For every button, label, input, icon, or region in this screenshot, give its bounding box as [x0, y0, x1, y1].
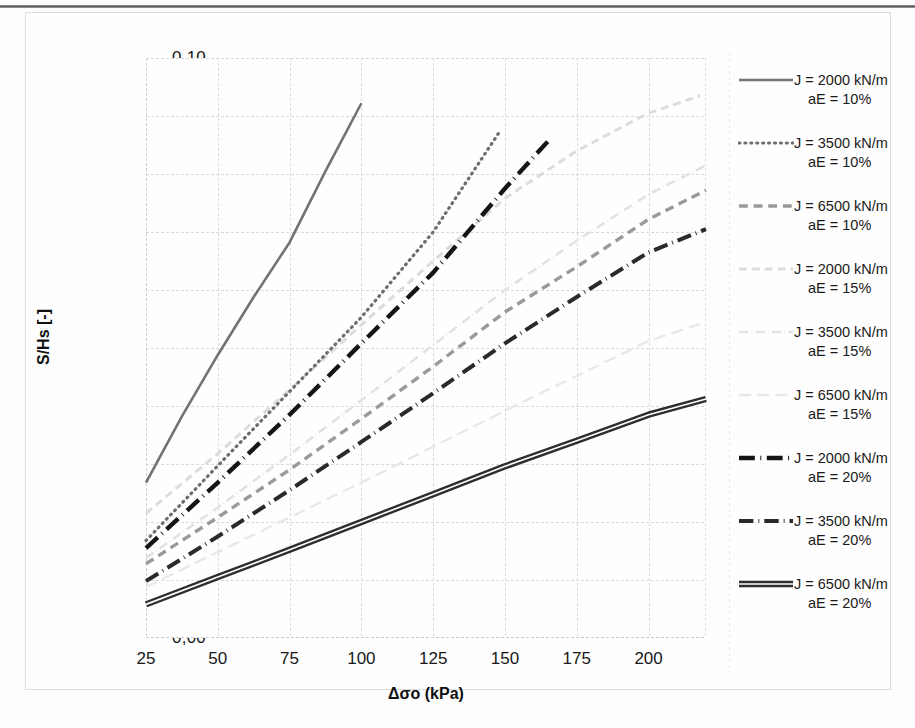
plot-area: [146, 58, 706, 638]
legend-item[interactable]: J = 3500 kN/maE = 10%: [738, 134, 915, 172]
legend-divider: [729, 53, 730, 673]
legend-label: J = 6500 kN/maE = 10%: [794, 197, 888, 235]
legend-label: J = 6500 kN/maE = 15%: [794, 386, 888, 424]
legend-item[interactable]: J = 6500 kN/maE = 20%: [738, 575, 915, 613]
legend-label-line2: aE = 20%: [794, 594, 888, 613]
legend-label: J = 2000 kN/maE = 10%: [794, 71, 888, 109]
x-tick-label: 175: [537, 649, 617, 669]
series-line: [146, 229, 706, 581]
legend-label-line1: J = 3500 kN/m: [794, 323, 888, 342]
legend-label-line1: J = 2000 kN/m: [794, 260, 888, 279]
legend-item[interactable]: J = 2000 kN/maE = 15%: [738, 260, 915, 298]
legend-line-swatch: [738, 324, 794, 340]
legend-label-line1: J = 3500 kN/m: [794, 134, 888, 153]
legend-label-line1: J = 3500 kN/m: [794, 512, 888, 531]
x-axis-label: Δσo (kPa): [388, 685, 464, 703]
chart-legend: J = 2000 kN/maE = 10%J = 3500 kN/maE = 1…: [738, 71, 915, 638]
legend-label-line2: aE = 20%: [794, 531, 888, 550]
x-tick-label: 100: [321, 649, 401, 669]
legend-label-line2: aE = 15%: [794, 405, 888, 424]
legend-label-line2: aE = 15%: [794, 342, 888, 361]
legend-label-line2: aE = 15%: [794, 279, 888, 298]
series-line: [146, 103, 361, 482]
x-tick-label: 125: [393, 649, 473, 669]
legend-line-swatch: [738, 135, 794, 151]
series-line: [146, 399, 706, 604]
x-tick-label: 200: [609, 649, 689, 669]
series-line: [146, 96, 700, 514]
data-curves: [146, 58, 706, 638]
legend-label-line1: J = 6500 kN/m: [794, 197, 888, 216]
legend-label-line2: aE = 10%: [794, 216, 888, 235]
x-tick-label: 50: [178, 649, 258, 669]
x-tick-label: 25: [106, 649, 186, 669]
x-tick-label: 75: [250, 649, 330, 669]
scan-edge-rule: [0, 5, 915, 8]
legend-label-line1: J = 6500 kN/m: [794, 386, 888, 405]
legend-label-line2: aE = 10%: [794, 90, 888, 109]
legend-label-line2: aE = 20%: [794, 468, 888, 487]
legend-label-line1: J = 2000 kN/m: [794, 71, 888, 90]
series-line: [146, 190, 706, 564]
legend-line-swatch: [738, 576, 794, 592]
legend-line-swatch: [738, 387, 794, 403]
legend-item[interactable]: J = 6500 kN/maE = 10%: [738, 197, 915, 235]
legend-label-line2: aE = 10%: [794, 153, 888, 172]
x-tick-label: 150: [465, 649, 545, 669]
legend-label: J = 6500 kN/maE = 20%: [794, 575, 888, 613]
legend-item[interactable]: J = 6500 kN/maE = 15%: [738, 386, 915, 424]
legend-label: J = 2000 kN/maE = 20%: [794, 449, 888, 487]
legend-line-swatch: [738, 513, 794, 529]
plot-area-wrapper: [146, 58, 706, 638]
series-line: [146, 132, 499, 540]
legend-label: J = 3500 kN/maE = 10%: [794, 134, 888, 172]
legend-line-swatch: [738, 450, 794, 466]
y-axis-label: S/Hs [-]: [35, 309, 53, 365]
legend-item[interactable]: J = 2000 kN/maE = 10%: [738, 71, 915, 109]
legend-label: J = 3500 kN/maE = 20%: [794, 512, 888, 550]
legend-line-swatch: [738, 261, 794, 277]
legend-label-line1: J = 6500 kN/m: [794, 575, 888, 594]
legend-line-swatch: [738, 198, 794, 214]
series-line: [146, 138, 551, 548]
legend-label: J = 3500 kN/maE = 15%: [794, 323, 888, 361]
legend-item[interactable]: J = 3500 kN/maE = 20%: [738, 512, 915, 550]
legend-item[interactable]: J = 2000 kN/maE = 20%: [738, 449, 915, 487]
chart-frame: S/Hs [-] Δσo (kPa) 0,000,010,020,030,040…: [25, 12, 891, 690]
legend-item[interactable]: J = 3500 kN/maE = 15%: [738, 323, 915, 361]
legend-line-swatch: [738, 72, 794, 88]
legend-label: J = 2000 kN/maE = 15%: [794, 260, 888, 298]
legend-label-line1: J = 2000 kN/m: [794, 449, 888, 468]
